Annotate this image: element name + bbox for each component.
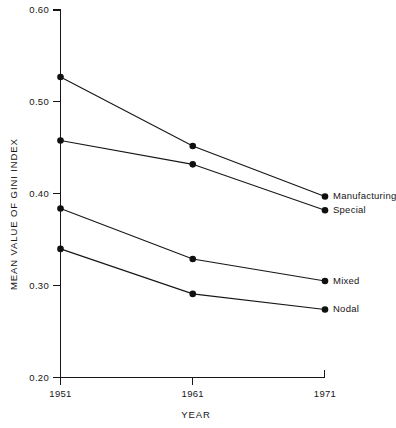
data-point-mixed-1961 — [189, 256, 196, 263]
x-tick-label: 1961 — [182, 388, 204, 399]
data-point-nodal-1961 — [189, 291, 196, 298]
series-line-mixed — [61, 208, 326, 281]
chart-axes — [60, 10, 325, 378]
x-axis-title: YEAR — [181, 409, 210, 420]
chart-container: 0.600.500.400.300.20 195119611971 Manufa… — [0, 0, 396, 428]
data-point-special-1971 — [322, 207, 329, 214]
series-group — [57, 74, 328, 313]
data-point-special-1961 — [189, 161, 196, 168]
y-axis-title: MEAN VALUE OF GINI INDEX — [8, 138, 19, 290]
y-tick-group: 0.600.500.400.300.20 — [29, 4, 60, 383]
series-line-special — [61, 140, 326, 210]
data-point-nodal-1951 — [57, 246, 64, 253]
y-tick-label: 0.20 — [29, 372, 49, 383]
series-label-mixed: Mixed — [333, 275, 360, 286]
y-tick-label: 0.50 — [29, 96, 49, 107]
series-label-manufacturing: Manufacturing — [333, 190, 396, 201]
data-point-special-1951 — [57, 137, 64, 144]
data-point-manufacturing-1971 — [322, 193, 329, 200]
line-chart: 0.600.500.400.300.20 195119611971 Manufa… — [0, 0, 396, 428]
x-tick-label: 1951 — [49, 388, 71, 399]
x-tick-group: 195119611971 — [49, 378, 336, 400]
data-point-mixed-1951 — [57, 205, 64, 212]
data-point-mixed-1971 — [322, 278, 329, 285]
series-label-group: ManufacturingSpecialMixedNodal — [333, 190, 396, 314]
y-tick-label: 0.40 — [29, 188, 49, 199]
series-label-nodal: Nodal — [333, 303, 359, 314]
y-tick-label: 0.60 — [29, 4, 49, 15]
y-tick-label: 0.30 — [29, 280, 49, 291]
series-label-special: Special — [333, 204, 366, 215]
data-point-manufacturing-1951 — [57, 74, 64, 81]
data-point-nodal-1971 — [322, 306, 329, 313]
series-line-manufacturing — [61, 77, 326, 196]
data-point-manufacturing-1961 — [189, 143, 196, 150]
x-tick-label: 1971 — [314, 388, 336, 399]
